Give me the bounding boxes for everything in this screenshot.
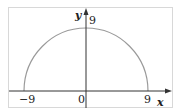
y-axis-arrow-icon (84, 8, 89, 15)
y-axis-label: y (74, 9, 83, 22)
tick-origin: 0 (78, 93, 85, 106)
tick-x-neg9: −9 (19, 93, 35, 106)
x-axis-label: x (156, 96, 164, 109)
tick-x-9: 9 (144, 93, 151, 106)
tick-y-9: 9 (89, 14, 96, 27)
semicircle-diagram: −9 0 9 9 y x (0, 0, 180, 111)
x-axis-arrow-icon (165, 89, 172, 94)
